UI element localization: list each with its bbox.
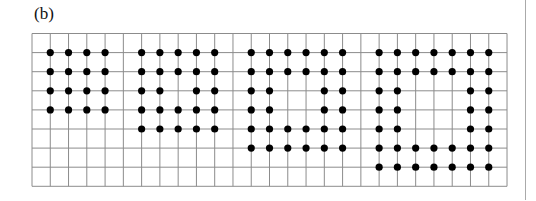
dot — [485, 145, 492, 152]
dot — [248, 125, 255, 132]
dot — [376, 145, 383, 152]
dot — [321, 49, 328, 56]
dot — [321, 125, 328, 132]
dot — [430, 68, 437, 75]
dot — [193, 106, 200, 113]
dot — [156, 87, 163, 94]
dot — [449, 145, 456, 152]
dot — [467, 164, 474, 171]
dot — [65, 49, 72, 56]
dot — [101, 87, 108, 94]
dot — [339, 87, 346, 94]
dot — [376, 164, 383, 171]
dot — [156, 125, 163, 132]
panel-3-6x6-hole2 — [248, 49, 347, 152]
dot — [339, 125, 346, 132]
dot — [175, 49, 182, 56]
dot — [248, 87, 255, 94]
dot — [485, 106, 492, 113]
dot — [321, 145, 328, 152]
dot — [449, 68, 456, 75]
dot — [339, 106, 346, 113]
dot — [211, 68, 218, 75]
dot — [138, 87, 145, 94]
dot — [376, 49, 383, 56]
dot — [430, 49, 437, 56]
dot — [47, 68, 54, 75]
dot — [248, 49, 255, 56]
dot — [394, 49, 401, 56]
dot — [83, 49, 90, 56]
dot — [284, 49, 291, 56]
dot — [376, 68, 383, 75]
dot — [485, 87, 492, 94]
dot — [321, 87, 328, 94]
dot — [193, 125, 200, 132]
dot — [193, 87, 200, 94]
dot — [138, 106, 145, 113]
dot — [266, 125, 273, 132]
dot — [65, 106, 72, 113]
dot — [339, 145, 346, 152]
dot — [302, 145, 309, 152]
dot — [302, 49, 309, 56]
dot — [211, 87, 218, 94]
dot — [449, 164, 456, 171]
dot — [467, 125, 474, 132]
dot — [266, 68, 273, 75]
dot — [467, 49, 474, 56]
dot — [156, 106, 163, 113]
dot — [175, 106, 182, 113]
dot — [485, 164, 492, 171]
dot — [266, 49, 273, 56]
dot — [83, 68, 90, 75]
dot-grid-diagram — [0, 0, 536, 201]
dot — [339, 49, 346, 56]
dot — [412, 68, 419, 75]
dot — [266, 87, 273, 94]
dot — [485, 68, 492, 75]
dot — [467, 87, 474, 94]
dot — [47, 49, 54, 56]
dot — [156, 49, 163, 56]
dot — [193, 49, 200, 56]
dot — [248, 68, 255, 75]
dot — [485, 125, 492, 132]
dot — [101, 68, 108, 75]
dot — [302, 125, 309, 132]
dot — [211, 106, 218, 113]
dot — [412, 145, 419, 152]
dot — [449, 49, 456, 56]
dot — [376, 87, 383, 94]
dot — [156, 68, 163, 75]
dot — [394, 68, 401, 75]
dot — [266, 145, 273, 152]
dot — [248, 106, 255, 113]
dot — [302, 68, 309, 75]
dot — [175, 68, 182, 75]
dot — [47, 106, 54, 113]
dot — [138, 68, 145, 75]
dot — [101, 49, 108, 56]
dot — [485, 49, 492, 56]
dot — [376, 125, 383, 132]
dot — [83, 87, 90, 94]
dot — [83, 106, 90, 113]
dot — [65, 87, 72, 94]
dot — [175, 125, 182, 132]
dot — [284, 68, 291, 75]
dot — [321, 68, 328, 75]
dot — [248, 145, 255, 152]
dot — [394, 145, 401, 152]
dot — [284, 145, 291, 152]
dot — [193, 68, 200, 75]
dot — [101, 106, 108, 113]
dot — [266, 106, 273, 113]
dot — [394, 164, 401, 171]
dot — [211, 49, 218, 56]
dot — [211, 125, 218, 132]
dot — [412, 164, 419, 171]
dot — [430, 164, 437, 171]
dot — [321, 106, 328, 113]
dot — [47, 87, 54, 94]
